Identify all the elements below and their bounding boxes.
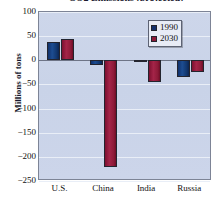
gridline <box>39 12 210 13</box>
legend-item: 1990 <box>151 22 178 33</box>
chart-legend: 1990 2030 <box>148 20 182 47</box>
gridline <box>39 157 210 158</box>
bar <box>104 60 117 167</box>
y-tick-label: −100 <box>2 104 36 113</box>
gridline <box>39 181 210 182</box>
y-tick-label: −200 <box>2 152 36 161</box>
y-tick-label: 100 <box>2 7 36 16</box>
bar <box>177 60 190 77</box>
bar <box>61 39 74 60</box>
legend-label: 2030 <box>160 34 178 43</box>
bar <box>148 60 161 82</box>
legend-item: 2030 <box>151 33 178 44</box>
gridline <box>39 133 210 134</box>
x-tick-label: Russia <box>159 183 214 193</box>
bar <box>134 60 147 62</box>
legend-label: 1990 <box>160 23 178 32</box>
bar <box>191 60 204 72</box>
bar <box>90 60 103 64</box>
bar-chart: CO2 Emissions (projected) Millions of to… <box>0 0 214 205</box>
chart-title: CO2 Emissions (projected) <box>38 0 214 1</box>
y-tick-label: 0 <box>2 55 36 64</box>
gridline <box>39 109 210 110</box>
gridline <box>39 36 210 37</box>
legend-swatch-1990-icon <box>151 25 157 31</box>
gridline <box>39 84 210 85</box>
y-tick-label: −150 <box>2 128 36 137</box>
legend-swatch-2030-icon <box>151 36 157 42</box>
y-tick-label: 50 <box>2 31 36 40</box>
bar <box>47 42 60 60</box>
plot-area <box>38 11 211 180</box>
y-tick-label: −50 <box>2 79 36 88</box>
